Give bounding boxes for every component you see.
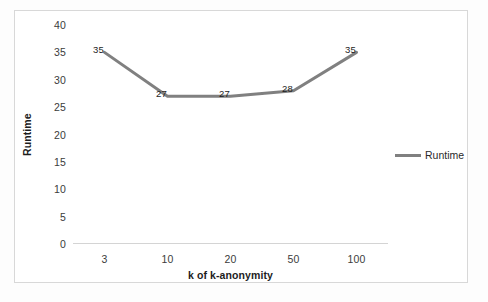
y-axis-tick-30: 30 bbox=[54, 74, 66, 86]
x-axis-title: k of k-anonymity bbox=[73, 269, 388, 281]
y-axis-tick-15: 15 bbox=[54, 156, 66, 168]
data-label-50: 28 bbox=[282, 83, 293, 94]
y-axis-tick-0: 0 bbox=[60, 238, 66, 250]
data-label-3: 35 bbox=[93, 44, 104, 55]
y-axis-tick-40: 40 bbox=[54, 19, 66, 31]
data-label-100: 35 bbox=[345, 44, 356, 55]
y-axis-title: Runtime bbox=[19, 11, 35, 258]
y-axis-tick-35: 35 bbox=[54, 46, 66, 58]
data-label-10: 27 bbox=[156, 88, 167, 99]
x-axis-tick-20: 20 bbox=[224, 253, 236, 265]
legend-label-runtime: Runtime bbox=[425, 149, 464, 161]
series-line-runtime bbox=[73, 25, 388, 244]
y-axis-tick-5: 5 bbox=[60, 211, 66, 223]
legend-line-icon bbox=[395, 154, 421, 157]
x-axis-tick-3: 3 bbox=[101, 253, 107, 265]
x-axis-tick-50: 50 bbox=[287, 253, 299, 265]
y-axis-tick-20: 20 bbox=[54, 129, 66, 141]
chart-frame: Runtime 4035302520151050 3102050100 3527… bbox=[14, 10, 468, 283]
chart-legend: Runtime bbox=[395, 149, 464, 161]
y-axis-tick-25: 25 bbox=[54, 101, 66, 113]
x-axis-tick-100: 100 bbox=[347, 253, 365, 265]
y-axis-tick-10: 10 bbox=[54, 183, 66, 195]
plot-area: 4035302520151050 3102050100 3527272835 bbox=[73, 25, 388, 244]
x-axis-tick-10: 10 bbox=[161, 253, 173, 265]
data-label-20: 27 bbox=[219, 88, 230, 99]
